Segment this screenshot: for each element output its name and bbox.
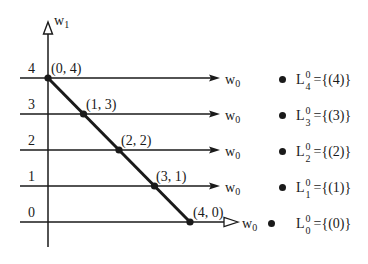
bullet-icon <box>279 76 286 83</box>
level-set-0: L00={(0)} <box>296 217 351 231</box>
set-subscript: 0 <box>306 224 311 238</box>
set-subscript: 4 <box>306 80 311 94</box>
set-symbol: L <box>296 108 305 123</box>
axis-label-sub: 0 <box>252 222 257 233</box>
axis-label-main: w <box>225 108 235 123</box>
axis-label-main: w <box>225 180 235 195</box>
level-value-2: 2 <box>28 134 35 148</box>
horizontal-axis-label-0: w0 <box>242 217 257 235</box>
level-set-3: L03={(3)} <box>296 109 351 123</box>
horizontal-axis-label-4: w0 <box>225 73 240 91</box>
point-label-2-2: (2, 2) <box>121 134 151 148</box>
bullet-icon <box>279 112 286 119</box>
bullet-icon <box>279 184 286 191</box>
level-line-3 <box>20 111 220 118</box>
axis-label-sub: 1 <box>64 19 69 30</box>
set-symbol: L <box>296 180 305 195</box>
axis-label-main: w <box>225 144 235 159</box>
axis-label-main: w <box>242 216 252 231</box>
point-label-1-3: (1, 3) <box>86 98 116 112</box>
axis-label-sub: 0 <box>235 186 240 197</box>
point-label-0-4: (0, 4) <box>51 62 81 76</box>
point-label-3-1: (3, 1) <box>156 170 186 184</box>
set-symbol: L <box>296 216 305 231</box>
bullet-icon <box>268 220 275 227</box>
level-value-3: 3 <box>28 98 35 112</box>
vertical-axis-label: w1 <box>54 14 69 32</box>
level-value-4: 4 <box>28 62 35 76</box>
level-value-0: 0 <box>28 206 35 220</box>
level-value-1: 1 <box>28 170 35 184</box>
set-value: ={(1)} <box>314 180 352 195</box>
level-set-2: L02={(2)} <box>296 145 351 159</box>
set-symbol: L <box>296 72 305 87</box>
level-set-4: L04={(4)} <box>296 73 351 87</box>
set-subscript: 2 <box>306 152 311 166</box>
set-symbol: L <box>296 144 305 159</box>
point-label-4-0: (4, 0) <box>193 206 223 220</box>
level-line-1 <box>20 183 220 190</box>
horizontal-axis-label-1: w0 <box>225 181 240 199</box>
set-value: ={(4)} <box>314 72 352 87</box>
horizontal-axis-label-2: w0 <box>225 145 240 163</box>
vertical-axis-arrow-icon <box>44 22 53 34</box>
set-value: ={(2)} <box>314 144 352 159</box>
set-subscript: 1 <box>306 188 311 202</box>
axis-label-sub: 0 <box>235 150 240 161</box>
axis-label-main: w <box>225 72 235 87</box>
bullet-icon <box>279 148 286 155</box>
set-value: ={(3)} <box>314 108 352 123</box>
set-subscript: 3 <box>306 116 311 130</box>
level-set-1: L01={(1)} <box>296 181 351 195</box>
open-arrow-icon <box>224 218 238 227</box>
axis-label-sub: 0 <box>235 114 240 125</box>
set-value: ={(0)} <box>314 216 352 231</box>
axis-label-sub: 0 <box>235 78 240 89</box>
axis-label-main: w <box>54 13 64 28</box>
horizontal-axis-label-3: w0 <box>225 109 240 127</box>
